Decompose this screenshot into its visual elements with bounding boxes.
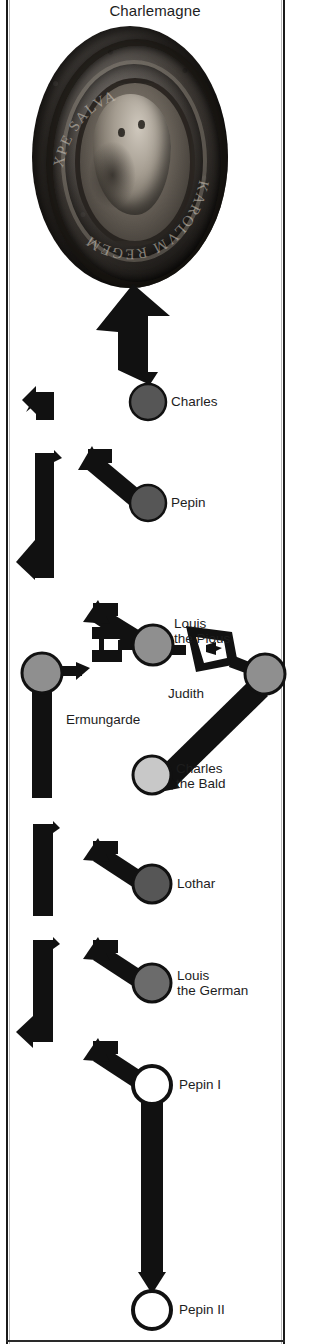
- marriage-link-icon: [92, 627, 122, 662]
- node-charles[interactable]: [130, 384, 166, 420]
- node-louis-the-pious[interactable]: [133, 625, 173, 665]
- node-louis-the-german[interactable]: [133, 964, 171, 1002]
- node-label-lothar: Lothar: [177, 876, 215, 891]
- node-ermungarde[interactable]: [22, 653, 62, 693]
- arrow-up-icon: [96, 284, 170, 384]
- node-lothar[interactable]: [133, 865, 171, 903]
- node-label-charles: Charles: [171, 394, 218, 409]
- arrow-head-left-icon: [16, 1016, 33, 1048]
- node-label-charles-the-bald: Charles the Bald: [176, 761, 226, 791]
- node-label-louis-the-german: Louis the German: [177, 968, 248, 998]
- node-label-judith: Judith: [168, 686, 204, 701]
- arrow-head-left-icon: [22, 386, 36, 414]
- spine-segment-upper: [22, 386, 54, 420]
- genealogy-tree-graphic: [0, 0, 310, 1344]
- node-label-pepin-ii: Pepin II: [179, 1302, 225, 1317]
- node-pepin-i[interactable]: [133, 1066, 171, 1104]
- spine-segment-middle: [16, 450, 62, 580]
- node-pepin[interactable]: [130, 485, 166, 521]
- node-label-pepin-i: Pepin I: [179, 1077, 221, 1092]
- node-label-louis-the-pious: Louis the Pious: [174, 616, 230, 646]
- node-pepin-ii[interactable]: [133, 1291, 171, 1329]
- edge-pepin-i-to-pepin-ii: [138, 1098, 166, 1294]
- node-charles-the-bald[interactable]: [133, 756, 171, 794]
- figure-panel: Charlemagne XPE SALVA KAROLVM REGEM: [0, 0, 310, 1344]
- edge-ermungarde-descent: [16, 690, 60, 1048]
- node-judith[interactable]: [245, 654, 285, 694]
- arrow-head-left-icon: [16, 540, 35, 580]
- node-label-pepin: Pepin: [171, 495, 206, 510]
- node-label-ermungarde: Ermungarde: [66, 712, 140, 727]
- edge-charles-to-seal: [96, 284, 170, 386]
